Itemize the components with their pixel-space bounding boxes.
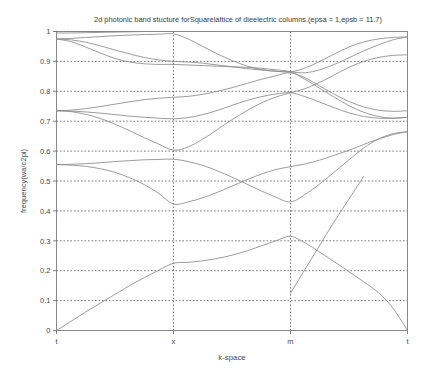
y-axis-label: frequency(wa/c2pi): [19, 148, 28, 213]
y-tick-label: 0.8: [40, 87, 51, 96]
y-tick-label: 0.4: [40, 207, 51, 216]
band-structure-chart: 2d photonic band stucture forSquarelatti…: [0, 0, 424, 369]
y-tick-label: 0.9: [40, 57, 51, 66]
y-tick-label: 0.3: [40, 237, 51, 246]
y-tick-label: 0.7: [40, 117, 51, 126]
y-tick-label: 1: [46, 27, 50, 36]
y-tick-label: 0: [46, 326, 50, 335]
chart-background: [0, 0, 424, 369]
y-tick-label: 0.1: [40, 296, 51, 305]
x-tick-label: x: [172, 337, 176, 346]
y-tick-label: 0.2: [40, 266, 51, 275]
y-tick-label: 0.6: [40, 147, 51, 156]
chart-title: 2d photonic band stucture forSquarelatti…: [94, 15, 382, 24]
y-tick-label: 0.5: [40, 177, 51, 186]
x-tick-label: m: [287, 337, 293, 346]
x-axis-label: k-space: [218, 353, 245, 362]
